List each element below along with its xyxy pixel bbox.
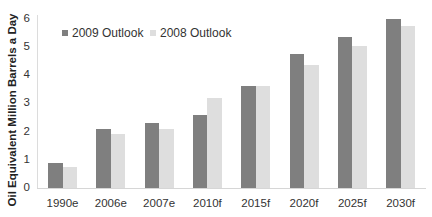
bar-2007e-2009-outlook xyxy=(145,123,160,188)
x-tick-label: 2015f xyxy=(234,197,278,209)
legend-swatch-icon xyxy=(150,30,156,36)
bar-2010f-2008-outlook xyxy=(207,98,222,188)
bar-2015f-2009-outlook xyxy=(241,86,256,188)
x-tick-label: 2010f xyxy=(185,197,229,209)
x-axis-line xyxy=(37,188,426,189)
y-tick-label: 6 xyxy=(18,12,30,24)
bar-2006e-2008-outlook xyxy=(111,134,126,188)
bar-2020f-2009-outlook xyxy=(290,54,305,188)
x-tick-label: 2006e xyxy=(89,197,133,209)
x-tick-label: 2020f xyxy=(282,197,326,209)
y-tick-label: 3 xyxy=(18,96,30,108)
bar-2015f-2008-outlook xyxy=(256,86,271,188)
x-tick-label: 1990e xyxy=(41,197,85,209)
bar-chart: Oil Equivalent Million Barrels a Day 012… xyxy=(0,0,432,217)
legend-label: 2008 Outlook xyxy=(160,26,231,40)
bar-2025f-2008-outlook xyxy=(352,46,367,188)
x-tick-label: 2030f xyxy=(379,197,423,209)
y-axis-label: Oil Equivalent Million Barrels a Day xyxy=(6,13,18,206)
bar-2020f-2008-outlook xyxy=(304,65,319,188)
y-tick-label: 4 xyxy=(18,68,30,80)
bar-1990e-2008-outlook xyxy=(63,167,78,188)
x-tick-label: 2007e xyxy=(137,197,181,209)
legend-item: 2009 Outlook xyxy=(62,26,143,40)
bar-2030f-2009-outlook xyxy=(386,19,401,188)
bar-2030f-2008-outlook xyxy=(401,26,416,188)
y-tick-label: 0 xyxy=(18,181,30,193)
bar-2025f-2009-outlook xyxy=(338,37,353,188)
y-tick-label: 2 xyxy=(18,125,30,137)
y-tick-label: 5 xyxy=(18,40,30,52)
bar-1990e-2009-outlook xyxy=(48,163,63,188)
y-axis-line xyxy=(37,15,38,189)
y-tick-label: 1 xyxy=(18,153,30,165)
legend-label: 2009 Outlook xyxy=(72,26,143,40)
bar-2010f-2009-outlook xyxy=(193,115,208,188)
bar-2006e-2009-outlook xyxy=(96,129,111,188)
x-tick-label: 2025f xyxy=(330,197,374,209)
bar-2007e-2008-outlook xyxy=(159,129,174,188)
legend-item: 2008 Outlook xyxy=(150,26,231,40)
legend-swatch-icon xyxy=(62,30,68,36)
